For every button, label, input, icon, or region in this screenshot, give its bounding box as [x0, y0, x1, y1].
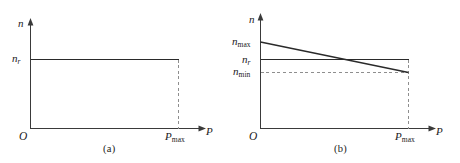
- x-tick-base-pmax-a: P: [165, 130, 172, 142]
- origin-label-a: O: [19, 131, 27, 143]
- y-tick-label-nmin-b: nmin: [233, 66, 250, 77]
- chart-a-canvas: [0, 0, 230, 163]
- chart-panel-a: n P O nr Pmax (a): [0, 0, 230, 163]
- chart-panel-b: n P O nmax nr nmin Pmax (b): [230, 0, 460, 163]
- y-tick-base-nmax-b: n: [232, 35, 238, 47]
- y-axis-label-b: n: [249, 14, 255, 25]
- y-tick-sub-nr-a: r: [18, 57, 21, 66]
- y-tick-base-nr-b: n: [242, 53, 248, 65]
- y-tick-base-nmin-b: n: [233, 65, 239, 77]
- panel-caption-b: (b): [334, 143, 347, 154]
- panel-caption-a: (a): [103, 143, 116, 154]
- y-tick-label-nr-b: nr: [242, 54, 251, 65]
- y-tick-sub-nmin-b: min: [239, 70, 251, 79]
- x-tick-base-pmax-b: P: [395, 130, 402, 142]
- x-tick-sub-pmax-b: max: [402, 135, 415, 144]
- x-tick-sub-pmax-a: max: [172, 135, 185, 144]
- y-axis-arrow-b: [258, 13, 264, 21]
- y-tick-sub-nmax-b: max: [238, 40, 251, 49]
- y-tick-label-nmax-b: nmax: [232, 36, 251, 47]
- figure-root: n P O nr Pmax (a) n P O nmax nr: [0, 0, 460, 163]
- y-axis-arrow-a: [28, 18, 34, 26]
- x-tick-label-pmax-b: Pmax: [395, 131, 415, 142]
- x-tick-label-pmax-a: Pmax: [165, 131, 185, 142]
- x-axis-arrow-a: [199, 126, 207, 132]
- chart-b-canvas: [230, 0, 460, 163]
- x-axis-arrow-b: [429, 126, 437, 132]
- y-tick-base-nr-a: n: [12, 52, 18, 64]
- origin-label-b: O: [249, 131, 257, 143]
- series-drooping-speed-b: [261, 42, 409, 73]
- y-axis-label-a: n: [18, 18, 24, 29]
- x-axis-label-a: P: [206, 126, 213, 137]
- x-axis-label-b: P: [436, 126, 443, 137]
- y-tick-label-nr-a: nr: [12, 53, 21, 64]
